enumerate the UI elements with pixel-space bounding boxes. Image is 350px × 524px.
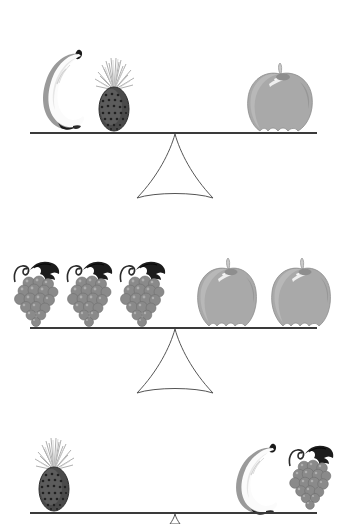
balance-scale-3 (0, 430, 350, 524)
balance-beam-and-fulcrum-2 (0, 250, 350, 400)
balance-beam-and-fulcrum-1 (0, 0, 350, 210)
balance-fulcrum (170, 514, 180, 524)
balance-fulcrum (137, 329, 213, 393)
balance-fulcrum (137, 134, 213, 198)
balance-scale-1 (0, 0, 350, 210)
balance-scale-2 (0, 250, 350, 400)
balance-beam-3 (0, 430, 350, 524)
fruit-balance-puzzle (0, 0, 350, 524)
